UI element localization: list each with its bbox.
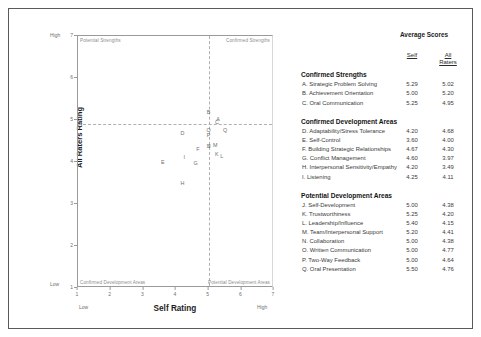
quadrant-label-potential-development-areas: Potential Development Areas [208, 280, 270, 285]
all-raters-score: 4.64 [433, 257, 463, 263]
self-score: 5.25 [398, 211, 426, 217]
table-row: N. Collaboration5.004.38 [301, 238, 473, 247]
all-raters-score: 4.41 [433, 229, 463, 235]
competency-name: L. Leadership/Influence [302, 220, 363, 226]
all-raters-score: 4.15 [433, 220, 463, 226]
self-score: 4.67 [398, 146, 426, 152]
table-row: D. Adaptability/Stress Tolerance4.204.68 [301, 128, 473, 137]
table-row: C. Oral Communication5.254.95 [301, 100, 473, 109]
self-score: 5.00 [398, 247, 426, 253]
y-axis-ticks: 1234567 [51, 35, 73, 287]
column-header-all-raters-line2: Raters [439, 59, 457, 65]
all-raters-score: 4.30 [433, 146, 463, 152]
page-sheet: All Raters Rating Self Rating High Low L… [8, 8, 473, 329]
table-row: K. Trustworthiness5.254.20 [301, 211, 473, 220]
x-tick-4: 4 [174, 291, 177, 297]
data-point-F: F [196, 146, 199, 152]
competency-name: Q. Oral Presentation [302, 266, 356, 272]
y-tick-5: 5 [70, 116, 73, 122]
table-row: M. Team/Interpersonal Support5.204.41 [301, 229, 473, 238]
average-scores-table: Average Scores Self All Raters Confirmed… [301, 25, 473, 325]
x-axis-low-label: Low [79, 304, 88, 310]
self-score: 4.25 [398, 174, 426, 180]
competency-name: J. Self-Development [302, 202, 355, 208]
self-score: 5.20 [398, 229, 426, 235]
self-score: 4.20 [398, 128, 426, 134]
self-score: 5.40 [398, 220, 426, 226]
data-point-K: K [215, 151, 219, 157]
data-point-N: N [207, 143, 211, 149]
all-raters-score: 3.49 [433, 164, 463, 170]
y-tick-4: 4 [70, 158, 73, 164]
table-row: Q. Oral Presentation5.504.76 [301, 266, 473, 275]
self-score: 5.29 [398, 81, 426, 87]
competency-name: M. Team/Interpersonal Support [302, 229, 383, 235]
y-tick-6: 6 [70, 74, 73, 80]
competency-name: B. Achievement Orientation [302, 90, 373, 96]
self-score: 5.00 [398, 90, 426, 96]
table-row: E. Self-Control3.604.00 [301, 137, 473, 146]
table-row: L. Leadership/Influence5.404.15 [301, 220, 473, 229]
x-axis-title: Self Rating [77, 304, 273, 313]
all-raters-score: 4.77 [433, 247, 463, 253]
x-tick-1: 1 [76, 291, 79, 297]
all-raters-score: 4.68 [433, 128, 463, 134]
all-raters-score: 4.20 [433, 211, 463, 217]
all-raters-score: 4.00 [433, 137, 463, 143]
competency-name: G. Conflict Management [302, 155, 366, 161]
competency-name: F. Building Strategic Relationships [302, 146, 391, 152]
data-point-D: D [181, 130, 185, 136]
table-row: J. Self-Development5.004.38 [301, 202, 473, 211]
x-tick-6: 6 [239, 291, 242, 297]
x-tick-3: 3 [141, 291, 144, 297]
x-axis-high-label: High [257, 304, 267, 310]
all-raters-score: 4.95 [433, 100, 463, 106]
data-point-P: P [207, 132, 211, 138]
table-body: Confirmed StrengthsA. Strategic Problem … [301, 71, 473, 275]
self-score: 5.00 [398, 202, 426, 208]
all-raters-score: 4.76 [433, 266, 463, 272]
column-header-self: Self [398, 52, 426, 59]
competency-name: D. Adaptability/Stress Tolerance [302, 128, 385, 134]
self-score: 3.60 [398, 137, 426, 143]
y-tick-1: 1 [70, 284, 73, 290]
table-row: A. Strategic Problem Solving5.295.02 [301, 81, 473, 90]
competency-name: K. Trustworthiness [302, 211, 350, 217]
x-axis-ticks: 1234567 [77, 291, 273, 301]
competency-name: H. Interpersonal Sensitivity/Empathy [302, 164, 397, 170]
table-row: G. Conflict Management4.603.97 [301, 155, 473, 164]
group-heading: Potential Development Areas [301, 192, 473, 199]
vertical-reference-line [209, 36, 210, 286]
data-point-B: B [207, 109, 211, 115]
all-raters-score: 3.97 [433, 155, 463, 161]
competency-name: A. Strategic Problem Solving [302, 81, 377, 87]
self-score: 4.60 [398, 155, 426, 161]
competency-name: C. Oral Communication [302, 100, 363, 106]
self-score: 5.25 [398, 100, 426, 106]
data-point-G: G [193, 160, 197, 166]
competency-name: O. Written Communication [302, 247, 371, 253]
data-point-H: H [181, 180, 185, 186]
y-tick-2: 2 [70, 242, 73, 248]
plot-area: Potential Strengths Confirmed Strengths … [77, 35, 273, 287]
x-tick-2: 2 [108, 291, 111, 297]
data-point-I: I [183, 154, 185, 160]
group-heading: Confirmed Development Areas [301, 118, 473, 125]
quadrant-label-confirmed-strengths: Confirmed Strengths [226, 38, 270, 43]
all-raters-score: 4.38 [433, 202, 463, 208]
table-row: B. Achievement Orientation5.005.20 [301, 90, 473, 99]
data-point-L: L [220, 153, 223, 159]
table-row: I. Listening4.254.11 [301, 174, 473, 183]
table-row: O. Written Communication5.004.77 [301, 247, 473, 256]
all-raters-score: 4.11 [433, 174, 463, 180]
quadrant-label-potential-strengths: Potential Strengths [80, 38, 121, 43]
self-score: 4.20 [398, 164, 426, 170]
data-point-M: M [213, 142, 218, 148]
table-row: F. Building Strategic Relationships4.674… [301, 146, 473, 155]
x-tick-5: 5 [206, 291, 209, 297]
report-page: All Raters Rating Self Rating High Low L… [0, 0, 481, 337]
horizontal-reference-line [78, 124, 272, 125]
competency-name: N. Collaboration [302, 238, 344, 244]
table-row: P. Two-Way Feedback5.004.64 [301, 257, 473, 266]
quadrant-scatter-chart: All Raters Rating Self Rating High Low L… [29, 23, 291, 315]
